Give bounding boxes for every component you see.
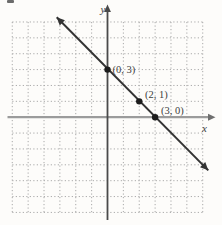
point-label: (2, 1) <box>145 89 168 101</box>
y-axis-label: y <box>100 3 106 15</box>
point-label: (0, 3) <box>113 64 136 76</box>
axes <box>8 5 216 221</box>
point-label: (3, 0) <box>161 105 184 117</box>
figure: (0, 3)(2, 1)(3, 0) x y <box>0 0 222 225</box>
plot: (0, 3)(2, 1)(3, 0) <box>57 17 209 170</box>
x-axis-arrow-icon <box>208 114 216 121</box>
x-axis-label: x <box>201 122 207 134</box>
crop-artifact-mark <box>7 0 14 3</box>
coordinate-plane: (0, 3)(2, 1)(3, 0) x y <box>0 0 222 225</box>
plotted-line <box>57 17 209 170</box>
data-point <box>136 98 142 104</box>
data-point <box>152 114 158 120</box>
data-point <box>104 66 110 72</box>
